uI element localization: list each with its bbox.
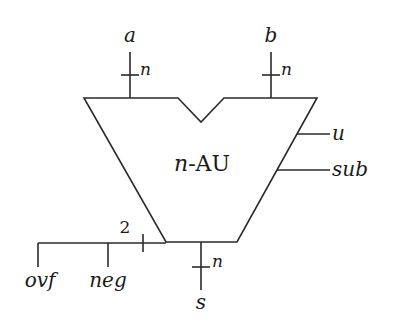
flag-bus-width-label: 2 (120, 217, 131, 237)
output-s-label: s (196, 290, 206, 314)
input-b-width-label: n (281, 59, 292, 79)
input-a-width-label: n (140, 59, 151, 79)
control-u-label: u (332, 121, 345, 145)
alu-diagram: a n b n u sub n-AU n s 2 ovf neg (0, 0, 394, 333)
output-neg-label: neg (89, 268, 127, 292)
output-ovf-label: ovf (25, 268, 59, 292)
input-a-label: a (124, 23, 136, 47)
block-label: n-AU (174, 151, 230, 176)
input-b-label: b (265, 23, 278, 47)
control-sub-label: sub (332, 157, 368, 181)
output-s-width-label: n (212, 251, 223, 271)
